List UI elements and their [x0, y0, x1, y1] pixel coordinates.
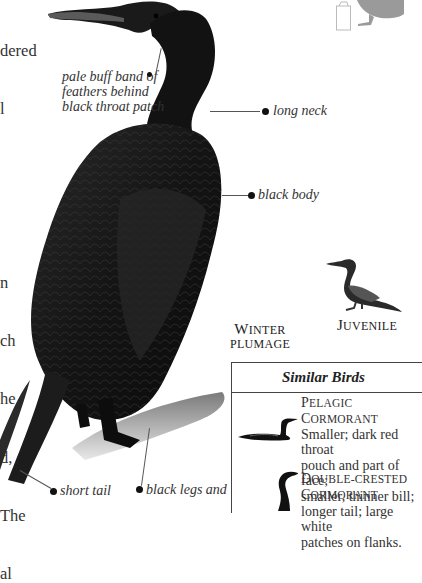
name-rest: ELAGIC: [309, 397, 352, 409]
leader-line: [210, 111, 260, 112]
caption-cap: W: [234, 321, 248, 337]
name-rest: ORMORANT: [311, 413, 378, 425]
desc-line: Smaller; dark red throat: [301, 427, 421, 458]
callout-dot: [50, 488, 57, 495]
juvenile-cormorant-illustration: [322, 256, 404, 314]
callout-dot: [248, 192, 255, 199]
callout-throat-patch: pale buff band of feathers behind black …: [62, 69, 192, 114]
callout-black-body: black body: [258, 187, 319, 202]
name-cap: D: [301, 471, 311, 486]
name-cap: C: [301, 411, 311, 426]
double-crested-cormorant-icon: [270, 471, 300, 511]
callout-dot: [136, 486, 143, 493]
body-text-line: The: [0, 506, 60, 525]
similar-birds-panel: Similar Birds PELAGIC CORMORANT Smaller;…: [231, 362, 422, 513]
caption-rest: UVENILE: [343, 319, 397, 333]
callout-short-tail: short tail: [60, 483, 111, 498]
callout-line: feathers behind: [62, 84, 192, 99]
desc-line: longer tail; large white: [301, 504, 421, 535]
caption-winter-plumage: WINTER PLUMAGE: [210, 322, 310, 351]
name-cap: C: [301, 487, 311, 502]
callout-line: black throat patch: [62, 99, 192, 114]
caption-rest: INTER: [249, 323, 286, 337]
leader-line: [222, 195, 248, 196]
caption-juvenile: JUVENILE: [332, 318, 402, 333]
name-rest: OUBLE-CRESTED: [311, 473, 407, 485]
callout-dot: [262, 108, 269, 115]
caption-line2: PLUMAGE: [210, 337, 310, 351]
entry-name: PELAGIC CORMORANT: [301, 395, 421, 427]
desc-line: patches on flanks.: [301, 535, 421, 550]
body-text-line: al: [0, 564, 60, 583]
callout-line: pale buff band of: [62, 69, 192, 84]
entry-name: DOUBLE-CRESTED CORMORANT: [301, 471, 421, 503]
callout-dot: [147, 72, 152, 77]
name-rest: ORMORANT: [311, 489, 378, 501]
similar-bird-entry: DOUBLE-CRESTED CORMORANT: [301, 471, 421, 503]
name-cap: P: [301, 395, 309, 410]
callout-black-legs: black legs and: [146, 482, 227, 497]
habitat-silhouette-icon: [355, 0, 404, 28]
callout-long-neck: long neck: [273, 103, 327, 118]
pelagic-cormorant-icon: [236, 417, 300, 441]
panel-title: Similar Birds: [232, 363, 422, 393]
